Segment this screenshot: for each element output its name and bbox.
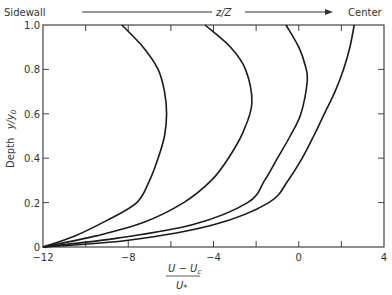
y-tick-label: 1.0 bbox=[24, 20, 40, 31]
chart-canvas: Sidewall z/Z Center −12−8−404 00.20.40.6… bbox=[0, 0, 392, 295]
center-label: Center bbox=[348, 7, 383, 18]
velocity-profile-curve-1 bbox=[43, 25, 167, 247]
y-tick-label: 0.4 bbox=[24, 153, 40, 164]
x-tick-label: 4 bbox=[381, 252, 387, 263]
x-axis-label: U − Uc U* bbox=[166, 263, 201, 293]
y-label-var: y/y bbox=[5, 113, 16, 130]
y-label-var-sub: 0 bbox=[10, 109, 18, 114]
sidewall-label: Sidewall bbox=[4, 7, 46, 18]
y-tick-label: 0.8 bbox=[24, 64, 40, 75]
velocity-profile-curve-4 bbox=[43, 25, 354, 247]
svg-text:Depth y/y0: Depth y/y0 bbox=[5, 109, 18, 168]
velocity-profile-curve-3 bbox=[43, 25, 307, 247]
y-axis-label: Depth y/y0 bbox=[5, 109, 18, 168]
velocity-profile-curve-2 bbox=[43, 25, 252, 247]
x-label-numerator: U − Uc bbox=[168, 263, 201, 276]
y-tick-labels: 00.20.40.60.81.0 bbox=[24, 20, 40, 253]
y-tick-label: 0.6 bbox=[24, 109, 40, 120]
y-tick-label: 0 bbox=[34, 242, 40, 253]
velocity-profiles bbox=[43, 25, 354, 247]
axis-ticks bbox=[43, 25, 384, 247]
x-tick-label: −12 bbox=[32, 252, 53, 263]
y-label-text: Depth bbox=[5, 138, 16, 168]
x-tick-label: −8 bbox=[121, 252, 136, 263]
x-tick-labels: −12−8−404 bbox=[32, 252, 387, 263]
z-over-Z-label: z/Z bbox=[215, 7, 233, 18]
y-tick-label: 0.2 bbox=[24, 198, 40, 209]
plot-frame bbox=[43, 25, 384, 247]
x-label-denominator: U* bbox=[176, 280, 187, 293]
x-tick-label: −4 bbox=[206, 252, 221, 263]
header-row: Sidewall z/Z Center bbox=[4, 7, 383, 18]
x-tick-label: 0 bbox=[296, 252, 302, 263]
arrow-head-icon bbox=[325, 9, 333, 15]
